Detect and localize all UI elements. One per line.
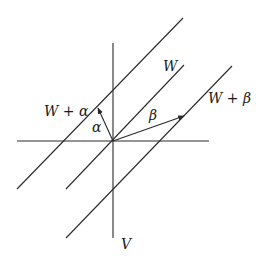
label-v: V xyxy=(121,236,133,252)
line-w xyxy=(66,65,184,189)
label-w-plus-beta: W + β xyxy=(208,90,251,106)
line-w-plus-alpha xyxy=(17,18,183,189)
vector-space-diagram: W W + α W + β α β V xyxy=(0,0,261,259)
label-beta: β xyxy=(148,107,157,123)
label-w-plus-alpha: W + α xyxy=(44,103,89,119)
label-w: W xyxy=(163,58,179,74)
label-alpha: α xyxy=(92,119,102,135)
